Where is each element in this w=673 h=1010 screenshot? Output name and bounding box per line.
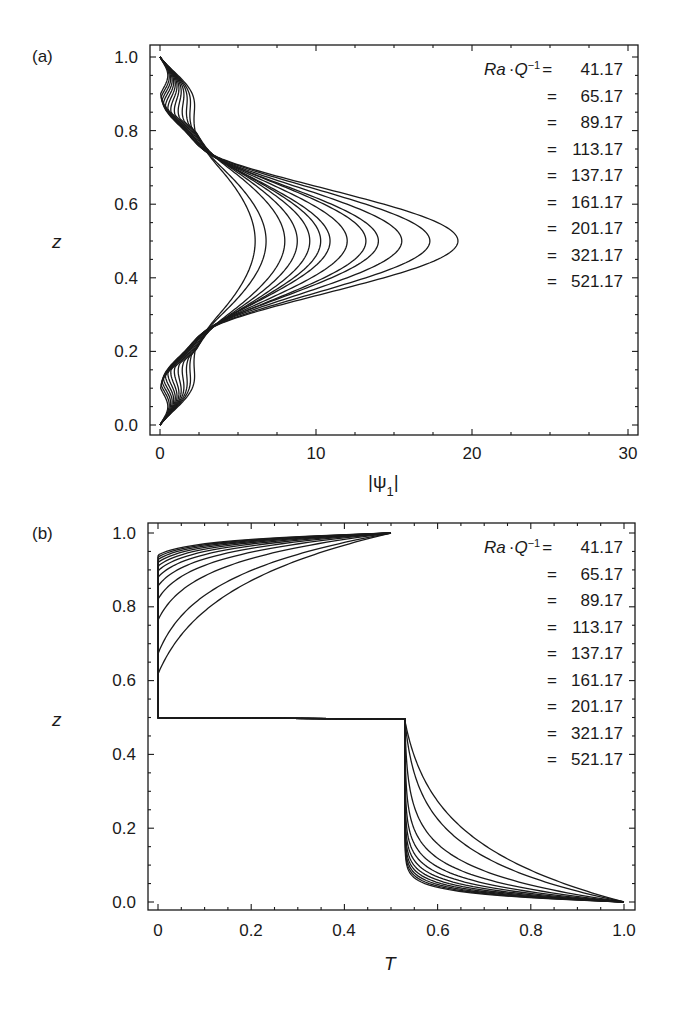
- legend-equals: =: [547, 166, 557, 185]
- psi-curve: [160, 57, 378, 425]
- panel-a-curves: [160, 57, 458, 425]
- legend-equals: =: [547, 113, 557, 132]
- y-tick-label: 1.0: [112, 524, 136, 543]
- panel-a-frame: [150, 45, 638, 435]
- panel-a-xlabel: |ψ1|: [368, 471, 399, 499]
- y-tick-label: 1.0: [114, 48, 138, 67]
- y-tick-label: 0.4: [112, 745, 136, 764]
- legend-value: 65.17: [580, 87, 623, 106]
- legend-equals: =: [547, 565, 557, 584]
- panel-b-ylabel: z: [51, 709, 62, 730]
- panel-b-curves: [158, 533, 624, 902]
- psi-curve: [160, 57, 347, 425]
- legend-equals: =: [547, 671, 557, 690]
- x-tick-label: 0.8: [519, 921, 543, 940]
- psi-curve: [160, 57, 330, 425]
- y-tick-label: 0.6: [114, 195, 138, 214]
- psi-curve: [160, 57, 297, 425]
- legend-value: 521.17: [571, 272, 623, 291]
- panel-b-label: (b): [32, 524, 53, 543]
- panel-b-xlabel: T: [384, 953, 397, 974]
- legend-title: Ra·Q−1=: [484, 537, 552, 557]
- psi-curve: [160, 57, 266, 425]
- panel-b-frame: [148, 523, 635, 910]
- legend-equals: =: [547, 750, 557, 769]
- panel-a-y-tick-labels: 0.0 0.2 0.4 0.6 0.8 1.0: [114, 48, 138, 435]
- temperature-curve: [158, 533, 624, 902]
- legend-value: 201.17: [571, 219, 623, 238]
- panel-a-label: (a): [32, 47, 53, 66]
- panel-a-legend: Ra·Q−1= 41.17=65.17=89.17=113.17=137.17=…: [484, 59, 623, 291]
- psi-curve: [160, 57, 321, 425]
- panel-b: (b) z T 0.0 0.2 0.4 0.6 0.8 1.0 0 0.2 0.…: [32, 523, 636, 974]
- y-tick-label: 0.2: [112, 819, 136, 838]
- panel-b-legend: Ra·Q−1= 41.17=65.17=89.17=113.17=137.17=…: [484, 537, 623, 769]
- y-tick-label: 0.8: [112, 597, 136, 616]
- legend-value: 137.17: [571, 166, 623, 185]
- legend-value: 161.17: [571, 671, 623, 690]
- legend-equals: =: [547, 87, 557, 106]
- panel-a: (a) z |ψ1| 0.0 0.2 0.4 0.6 0.8 1.0 0 10 …: [32, 45, 638, 499]
- legend-value: 89.17: [580, 113, 623, 132]
- x-tick-label: 0.4: [332, 921, 356, 940]
- panel-a-ticks: [150, 45, 638, 435]
- legend-value: 521.17: [571, 750, 623, 769]
- figure: (a) z |ψ1| 0.0 0.2 0.4 0.6 0.8 1.0 0 10 …: [0, 0, 673, 1010]
- panel-b-x-tick-labels: 0 0.2 0.4 0.6 0.8 1.0: [153, 921, 636, 940]
- legend-value: 137.17: [571, 644, 623, 663]
- y-tick-label: 0.0: [112, 893, 136, 912]
- legend-value: 321.17: [571, 246, 623, 265]
- legend-value: 161.17: [571, 193, 623, 212]
- legend-equals: =: [547, 246, 557, 265]
- panel-a-ylabel: z: [51, 231, 62, 252]
- legend-title: Ra·Q−1=: [484, 59, 552, 79]
- legend-equals: =: [547, 697, 557, 716]
- legend-value: 41.17: [580, 538, 623, 557]
- x-tick-label: 0.2: [239, 921, 263, 940]
- legend-value: 113.17: [572, 618, 623, 637]
- panel-a-x-tick-labels: 0 10 20 30: [155, 444, 637, 463]
- panel-b-y-tick-labels: 0.0 0.2 0.4 0.6 0.8 1.0: [112, 524, 136, 912]
- psi-curve: [160, 57, 430, 425]
- y-tick-label: 0.6: [112, 671, 136, 690]
- legend-value: 113.17: [572, 140, 623, 159]
- x-tick-label: 0: [153, 921, 162, 940]
- x-tick-label: 0: [155, 444, 164, 463]
- legend-value: 201.17: [571, 697, 623, 716]
- y-tick-label: 0.0: [114, 416, 138, 435]
- legend-equals: =: [547, 644, 557, 663]
- legend-value: 89.17: [580, 591, 623, 610]
- legend-equals: =: [547, 591, 557, 610]
- y-tick-label: 0.4: [114, 269, 138, 288]
- psi-curve: [160, 57, 458, 425]
- x-tick-label: 10: [307, 444, 326, 463]
- psi-curve: [160, 57, 366, 425]
- x-tick-label: 1.0: [612, 921, 636, 940]
- y-tick-label: 0.8: [114, 122, 138, 141]
- legend-equals: =: [547, 724, 557, 743]
- legend-equals: =: [547, 219, 557, 238]
- panel-b-ticks: [148, 523, 635, 910]
- y-tick-label: 0.2: [114, 342, 138, 361]
- legend-value: 65.17: [580, 565, 623, 584]
- legend-equals: =: [547, 272, 557, 291]
- legend-value: 321.17: [571, 724, 623, 743]
- x-tick-label: 20: [463, 444, 482, 463]
- legend-value: 41.17: [580, 60, 623, 79]
- legend-equals: =: [547, 140, 557, 159]
- legend-equals: =: [547, 618, 557, 637]
- x-tick-label: 0.6: [426, 921, 450, 940]
- x-tick-label: 30: [619, 444, 638, 463]
- legend-equals: =: [547, 193, 557, 212]
